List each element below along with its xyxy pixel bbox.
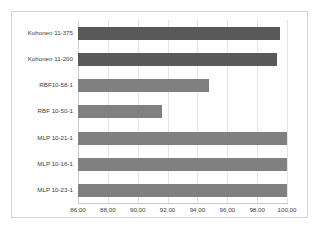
bar xyxy=(78,79,209,92)
category-label: MLP 10-23-1 xyxy=(37,183,73,196)
category-label: MLP 10-21-1 xyxy=(37,131,73,144)
x-tick-label: 92,00 xyxy=(160,206,175,213)
chart-container: Kohonen 11-375Kohonen 11-200RBF10-58-1RB… xyxy=(11,11,308,218)
bar xyxy=(78,53,277,66)
category-label: Kohonen 11-200 xyxy=(28,52,73,65)
x-tick-label: 94,00 xyxy=(190,206,205,213)
bar-row: MLP 10-16-1 xyxy=(78,151,287,177)
category-label: Kohonen 11-375 xyxy=(28,26,73,39)
x-axis-line xyxy=(78,203,288,204)
bar xyxy=(78,184,287,197)
category-label: RBF 10-50-1 xyxy=(38,104,73,117)
bar xyxy=(78,27,280,40)
x-tick-label: 96,00 xyxy=(220,206,235,213)
bar-row: Kohonen 11-375 xyxy=(78,20,287,46)
bar-row: MLP 10-21-1 xyxy=(78,125,287,151)
bar-row: MLP 10-23-1 xyxy=(78,177,287,203)
x-tick-label: 88,00 xyxy=(100,206,115,213)
category-label: MLP 10-16-1 xyxy=(37,157,73,170)
bar-row: RBF10-58-1 xyxy=(78,72,287,98)
plot-area: Kohonen 11-375Kohonen 11-200RBF10-58-1RB… xyxy=(78,20,287,203)
bar xyxy=(78,105,162,118)
bar xyxy=(78,132,287,145)
bar xyxy=(78,158,287,171)
x-tick-label: 100,00 xyxy=(278,206,297,213)
bar-row: RBF 10-50-1 xyxy=(78,98,287,124)
bar-row: Kohonen 11-200 xyxy=(78,46,287,72)
x-tick-label: 98,00 xyxy=(249,206,264,213)
category-label: RBF10-58-1 xyxy=(39,78,73,91)
gridline xyxy=(287,20,288,203)
x-tick-label: 90,00 xyxy=(130,206,145,213)
x-tick-label: 86,00 xyxy=(70,206,85,213)
